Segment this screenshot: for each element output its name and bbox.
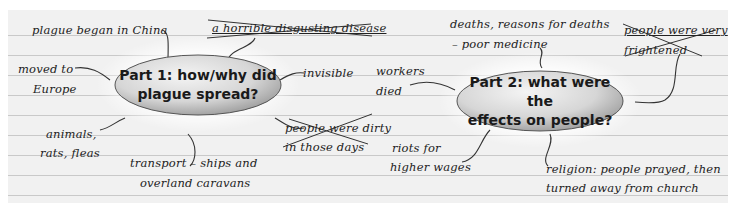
note-dirty-crossed-1: people were dirty	[285, 118, 391, 138]
central-topic-part1: Part 1: how/why did plague spread?	[115, 62, 281, 108]
note-religion-2: turned away from church	[546, 178, 699, 198]
central-topic-part2: Part 2: what were the effects on people?	[457, 78, 623, 124]
note-religion-1: religion: people prayed, then	[546, 159, 721, 179]
note-riots-1: riots for	[392, 138, 441, 158]
note-disease-crossed: a horrible disgusting disease	[212, 18, 386, 38]
note-deaths-1: deaths, reasons for deaths	[450, 14, 610, 34]
note-moved-2: Europe	[33, 79, 77, 99]
note-workers-2: died	[376, 81, 402, 101]
note-frightened-crossed-2: frightened	[624, 40, 687, 60]
note-animals-2: rats, fleas	[40, 143, 100, 163]
note-frightened-crossed-1: people were very	[624, 20, 728, 40]
note-animals-1: animals,	[46, 124, 97, 144]
note-workers-1: workers	[376, 61, 425, 81]
note-invisible: invisible	[303, 63, 353, 83]
note-moved-1: moved to	[18, 59, 73, 79]
note-china: plague began in China	[32, 20, 168, 40]
note-riots-2: higher wages	[390, 157, 471, 177]
note-transport-2: overland caravans	[140, 173, 250, 193]
part1-line2: plague spread?	[138, 85, 259, 104]
note-deaths-2: – poor medicine	[452, 34, 548, 54]
part2-line2: effects on people?	[468, 111, 613, 130]
note-transport-1: transport – ships and	[130, 153, 257, 173]
note-dirty-crossed-2: in those days	[285, 137, 364, 157]
part2-line1: Part 2: what were the	[457, 73, 623, 111]
part1-line1: Part 1: how/why did	[119, 66, 276, 85]
